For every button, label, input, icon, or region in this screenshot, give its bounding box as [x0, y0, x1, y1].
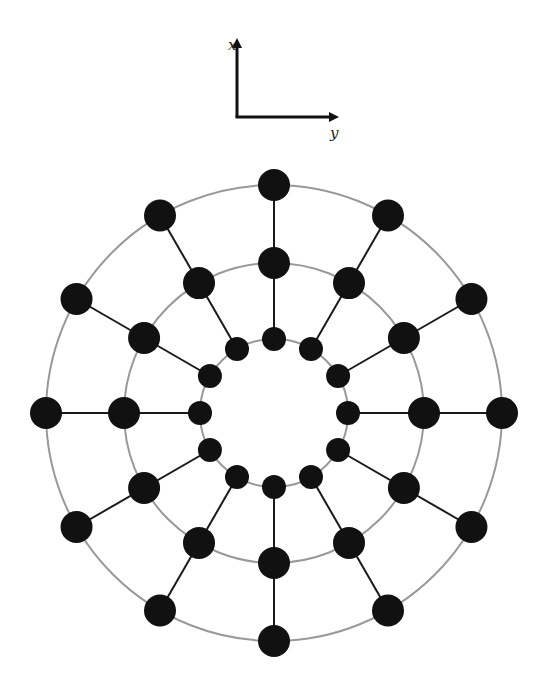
middle-node [128, 472, 160, 504]
inner-node [326, 364, 350, 388]
outer-node [61, 511, 93, 543]
middle-node [333, 267, 365, 299]
outer-node [455, 511, 487, 543]
inner-node [299, 337, 323, 361]
outer-node [486, 397, 518, 429]
inner-node [262, 475, 286, 499]
inner-node [198, 364, 222, 388]
inner-node [225, 465, 249, 489]
inner-node [336, 401, 360, 425]
diagram-canvas: x y [0, 0, 553, 694]
inner-node [262, 327, 286, 351]
outer-node [455, 283, 487, 315]
x-axis-label: x [228, 36, 237, 54]
middle-node [183, 527, 215, 559]
middle-node [388, 472, 420, 504]
outer-node [372, 594, 404, 626]
middle-node [258, 247, 290, 279]
middle-node [108, 397, 140, 429]
ring-network [30, 169, 518, 657]
middle-node [388, 322, 420, 354]
outer-node [258, 625, 290, 657]
outer-node [30, 397, 62, 429]
inner-node [198, 438, 222, 462]
middle-node [333, 527, 365, 559]
inner-node [188, 401, 212, 425]
middle-node [183, 267, 215, 299]
outer-node [144, 594, 176, 626]
inner-ring [200, 339, 348, 487]
inner-node [225, 337, 249, 361]
outer-node [61, 283, 93, 315]
inner-node [299, 465, 323, 489]
y-axis-label: y [329, 124, 339, 142]
outer-node [144, 200, 176, 232]
coordinate-axes: x y [228, 36, 339, 142]
inner-node [326, 438, 350, 462]
middle-node [408, 397, 440, 429]
middle-node [258, 547, 290, 579]
outer-node [258, 169, 290, 201]
outer-node [372, 200, 404, 232]
middle-node [128, 322, 160, 354]
